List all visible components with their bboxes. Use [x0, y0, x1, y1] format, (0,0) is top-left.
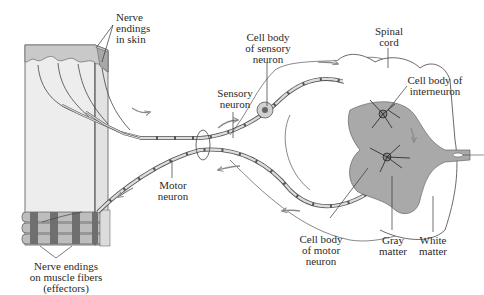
label-cell-body-sensory: Cell body of sensory neuron — [240, 32, 296, 65]
label-motor-neuron: Motor neuron — [153, 180, 193, 202]
label-cell-body-interneuron: Cell body of interneuron — [404, 75, 466, 97]
nerve-sheath — [196, 130, 210, 160]
sensory-inbound-arrow — [132, 108, 150, 113]
sensory-root-arrow — [218, 120, 238, 128]
muscle-fibers — [22, 210, 110, 258]
label-nerve-endings-skin: Nerve endings in skin — [116, 12, 150, 45]
label-spinal-cord: Spinal cord — [372, 26, 406, 48]
motor-outbound-arrow — [282, 210, 300, 211]
sensory-cell-body — [257, 102, 273, 118]
motor-root-arrow — [218, 166, 240, 170]
label-sensory-neuron: Sensory neuron — [213, 88, 257, 110]
label-white-matter: White matter — [414, 235, 452, 257]
motor-axon — [98, 149, 380, 212]
dorsal-arrow — [318, 62, 338, 64]
label-nerve-endings-muscle: Nerve endings on muscle fibers (effector… — [24, 261, 108, 294]
label-gray-matter: Gray matter — [376, 235, 410, 257]
label-cell-body-motor: Cell body of motor neuron — [296, 234, 346, 267]
